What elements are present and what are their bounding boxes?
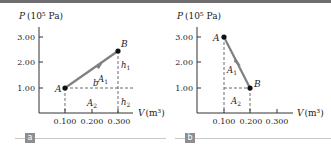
x-tick-0.1: 0.100: [54, 117, 77, 126]
label-point-b: B: [253, 79, 261, 89]
process-path-line: [65, 51, 118, 88]
pv-diagram-a: P(10⁵ Pa) 3.00 2.00 1.00 0.100 0.200 0.3…: [0, 0, 165, 153]
label-h2: h2: [121, 97, 130, 108]
label-area-a2: A2: [230, 96, 241, 107]
label-area-a1: A1: [226, 65, 237, 76]
x-tick-0.3: 0.300: [266, 117, 289, 126]
x-axis-title: V(m³): [297, 108, 324, 118]
point-b: [247, 85, 252, 90]
y-tick-1: 1.00: [17, 84, 35, 93]
y-tick-3: 3.00: [175, 33, 193, 42]
x-axis-title: V(m³): [138, 108, 165, 118]
x-tick-0.2: 0.200: [81, 117, 104, 126]
panel-badge-b: b: [185, 133, 195, 143]
label-h1: h1: [121, 60, 130, 71]
panel-a: P(10⁵ Pa) 3.00 2.00 1.00 0.100 0.200 0.3…: [0, 0, 165, 153]
panel-badge-a: a: [25, 133, 35, 143]
point-a: [221, 34, 226, 39]
x-tick-0.1: 0.100: [213, 117, 236, 126]
y-axis-title: P(10⁵ Pa): [18, 11, 63, 21]
point-a: [62, 85, 67, 90]
label-point-b: B: [120, 39, 128, 49]
label-area-a1: A1: [97, 74, 108, 85]
y-axis-title: P(10⁵ Pa): [176, 11, 221, 21]
x-tick-0.3: 0.300: [108, 117, 131, 126]
x-tick-0.2: 0.200: [240, 117, 263, 126]
panel-b: P(10⁵ Pa) 3.00 2.00 1.00 0.100 0.200 0.3…: [165, 0, 330, 153]
caption-rule-right: [35, 138, 166, 139]
label-point-a: A: [212, 33, 220, 43]
y-tick-1: 1.00: [175, 84, 193, 93]
label-point-a: A: [54, 84, 62, 94]
caption-rule-left: [175, 138, 185, 139]
label-base-b: b: [93, 78, 98, 88]
pv-diagram-b: P(10⁵ Pa) 3.00 2.00 1.00 0.100 0.200 0.3…: [165, 0, 331, 153]
point-b: [115, 48, 120, 53]
y-tick-2: 2.00: [17, 58, 35, 67]
caption-rule-right: [195, 138, 331, 139]
label-area-a2: A2: [86, 98, 97, 109]
y-tick-3: 3.00: [17, 33, 35, 42]
y-tick-2: 2.00: [175, 58, 193, 67]
caption-rule-left: [15, 138, 25, 139]
